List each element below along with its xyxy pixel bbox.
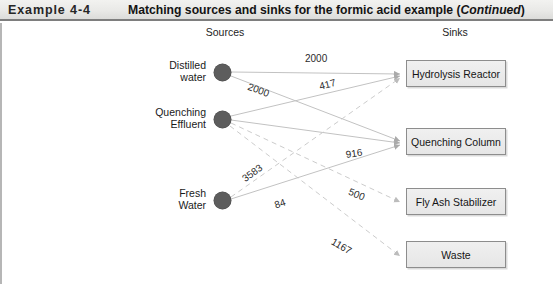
page-root: Example 4-4 Matching sources and sinks f… <box>0 0 553 284</box>
source-node-distilled-water[interactable] <box>214 64 231 81</box>
page-title: Matching sources and sinks for the formi… <box>128 3 525 17</box>
source-label-fresh-water: Fresh Water <box>118 187 206 211</box>
source-node-quenching-effluent[interactable] <box>214 111 231 128</box>
source-label-distilled-water: Distilled water <box>118 59 206 83</box>
sink-box-fly-ash-stabilizer[interactable]: Fly Ash Stabilizer <box>406 188 506 215</box>
sources-column-heading: Sources <box>190 26 260 38</box>
header-title-close: ) <box>521 3 525 17</box>
source-node-fresh-water[interactable] <box>214 192 231 209</box>
header-title-main: Matching sources and sinks for the formi… <box>128 3 461 17</box>
flow-edge-dw-hr <box>231 72 400 74</box>
example-header-bar: Example 4-4 Matching sources and sinks f… <box>0 0 553 21</box>
flow-label-dw-hr: 2000 <box>305 53 327 64</box>
sinks-column-heading: Sinks <box>420 26 490 38</box>
sink-box-quenching-column[interactable]: Quenching Column <box>406 128 506 155</box>
header-title-continued: Continued <box>461 3 521 17</box>
source-sink-matching-diagram: Sources Sinks Distilled water Quenching … <box>0 23 553 284</box>
sink-box-hydrolysis-reactor[interactable]: Hydrolysis Reactor <box>406 60 506 87</box>
example-number-label: Example 4-4 <box>8 3 91 17</box>
sink-box-waste[interactable]: Waste <box>406 241 506 268</box>
flow-label-qe-qc: 916 <box>345 147 363 160</box>
source-label-quenching-effluent: Quenching Effluent <box>118 106 206 130</box>
